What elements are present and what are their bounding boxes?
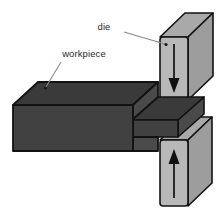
workpiece-extrusion-front-face bbox=[132, 120, 178, 137]
upper-die bbox=[160, 13, 213, 100]
workpiece-front-face bbox=[13, 105, 133, 151]
die-leader-line bbox=[124, 32, 165, 44]
workpiece-leader-dot bbox=[44, 86, 47, 89]
die-label: die bbox=[98, 21, 111, 32]
workpiece-label: workpiece bbox=[61, 48, 106, 59]
die-leader-dot bbox=[164, 43, 167, 46]
process-diagram: die workpiece bbox=[0, 0, 219, 215]
diagram-root: die workpiece bbox=[0, 0, 219, 215]
